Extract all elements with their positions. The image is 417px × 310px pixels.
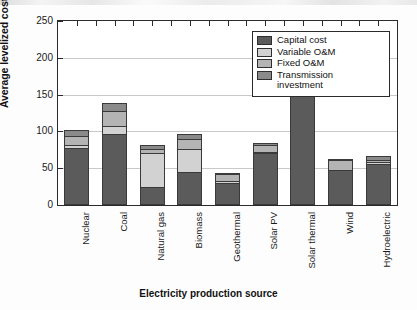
stacked-bar	[253, 143, 278, 205]
bar-segment	[140, 187, 165, 205]
bar-segment	[366, 160, 391, 162]
x-axis-tick-top	[228, 21, 229, 26]
x-axis-tick-top-minor	[133, 21, 134, 26]
bar-segment	[328, 160, 353, 170]
bar-segment	[177, 172, 202, 205]
x-axis-tick-top	[303, 21, 304, 26]
stacked-bar	[177, 134, 202, 205]
chart-legend: Capital cost Variable O&M Fixed O&M Tran…	[252, 31, 390, 97]
x-axis-category-label: Coal	[118, 212, 129, 232]
bar-segment	[253, 143, 278, 145]
x-axis-tick-top-minor	[284, 21, 285, 26]
x-axis-tick-top-minor	[359, 21, 360, 26]
x-axis-tick-top-minor	[171, 21, 172, 26]
legend-item-transmission-investment: Transmission investment	[257, 70, 385, 91]
bar-segment	[253, 153, 278, 205]
y-axis-tick	[58, 168, 63, 169]
bar-segment	[328, 159, 353, 160]
stacked-bar	[328, 159, 353, 205]
x-axis-category-label: Biomass	[193, 212, 204, 248]
bar-segment	[215, 181, 240, 182]
y-axis-tick-label: 200	[22, 51, 53, 62]
x-axis-tick-top	[115, 21, 116, 26]
y-axis-tick	[58, 205, 63, 206]
x-axis-tick-top	[341, 21, 342, 26]
chart-figure: Average levelized cost, US$/MWh Electric…	[0, 0, 417, 310]
bar-segment	[215, 174, 240, 181]
legend-swatch-capital-cost	[257, 36, 272, 45]
bar-segment	[177, 134, 202, 138]
x-axis-category-label: Natural gas	[155, 212, 166, 261]
legend-swatch-fixed-om	[257, 59, 272, 68]
bar-segment	[328, 170, 353, 205]
bar-segment	[177, 149, 202, 172]
x-axis-tick-top	[265, 21, 266, 26]
stacked-bar	[366, 156, 391, 205]
stacked-bar	[215, 173, 240, 205]
y-axis-tick	[58, 58, 63, 59]
bar-segment	[253, 145, 278, 152]
bar-segment	[64, 145, 89, 148]
legend-swatch-transmission-investment	[257, 71, 272, 80]
legend-item-fixed-om: Fixed O&M	[257, 58, 385, 69]
legend-label-transmission-investment: Transmission investment	[277, 70, 369, 91]
x-axis-category-label: Nuclear	[80, 212, 91, 245]
stacked-bar	[102, 103, 127, 205]
x-axis-category-label: Solar thermal	[306, 212, 317, 269]
x-axis-tick-top	[190, 21, 191, 26]
bar-segment	[64, 136, 89, 145]
bar-segment	[215, 183, 240, 205]
legend-item-capital-cost: Capital cost	[257, 35, 385, 46]
bar-segment	[140, 149, 165, 153]
bar-segment	[102, 103, 127, 111]
bar-segment	[64, 148, 89, 205]
x-axis-tick-top-minor	[246, 21, 247, 26]
x-axis-category-label: Geothermal	[231, 212, 242, 262]
y-axis-tick	[58, 21, 63, 22]
stacked-bar	[64, 130, 89, 205]
y-axis-tick-label: 0	[22, 199, 53, 210]
bar-segment	[366, 156, 391, 160]
bar-segment	[140, 145, 165, 149]
y-axis-tick	[58, 95, 63, 96]
bar-segment	[366, 164, 391, 205]
y-axis-tick-label: 100	[22, 125, 53, 136]
bar-segment	[140, 153, 165, 187]
x-axis-tick-top-minor	[322, 21, 323, 26]
legend-label-fixed-om: Fixed O&M	[277, 58, 325, 69]
bar-segment	[177, 139, 202, 149]
legend-item-variable-om: Variable O&M	[257, 47, 385, 58]
bar-segment	[366, 162, 391, 163]
x-axis-category-label: Solar PV	[268, 212, 279, 250]
bar-segment	[102, 111, 127, 126]
x-axis-tick-top	[77, 21, 78, 26]
x-axis-category-label: Wind	[344, 212, 355, 234]
x-axis-tick-top-minor	[209, 21, 210, 26]
bar-segment	[102, 134, 127, 205]
legend-label-variable-om: Variable O&M	[277, 47, 335, 58]
y-axis-tick	[58, 131, 63, 132]
x-axis-title: Electricity production source	[0, 288, 417, 299]
legend-swatch-variable-om	[257, 48, 272, 57]
scan-artifact-band	[0, 0, 417, 5]
x-axis-category-label: Hydroelectric	[381, 212, 392, 267]
bar-segment	[215, 173, 240, 174]
bar-segment	[64, 130, 89, 136]
y-axis-tick-label: 150	[22, 88, 53, 99]
y-axis-tick-label: 50	[22, 162, 53, 173]
stacked-bar	[140, 145, 165, 205]
y-axis-tick-label: 250	[22, 15, 53, 26]
x-axis-tick-top	[152, 21, 153, 26]
x-axis-tick-top	[378, 21, 379, 26]
y-axis-title: Average levelized cost, US$/MWh	[0, 0, 10, 108]
legend-label-capital-cost: Capital cost	[277, 35, 327, 46]
bar-segment	[102, 126, 127, 133]
x-axis-tick-top-minor	[96, 21, 97, 26]
